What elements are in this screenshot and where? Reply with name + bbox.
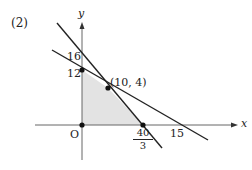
problem-label: (2) <box>11 17 28 29</box>
x-axis-label: x <box>241 118 247 129</box>
y-tick-12: 12 <box>67 68 81 79</box>
point-label-10-4: (10, 4) <box>110 77 147 88</box>
frac-denominator: 3 <box>133 141 153 151</box>
line-shallow <box>52 50 208 140</box>
y-tick-16: 16 <box>67 51 81 62</box>
x-tick-15: 15 <box>170 128 184 139</box>
x-axis-arrow-icon <box>231 123 238 128</box>
point-origin <box>79 122 84 127</box>
y-axis-arrow-icon <box>80 22 85 29</box>
x-tick-40-3: 40 3 <box>133 128 153 151</box>
frac-numerator: 40 <box>133 128 153 138</box>
y-axis-label: y <box>78 8 84 19</box>
origin-label: O <box>70 129 79 140</box>
